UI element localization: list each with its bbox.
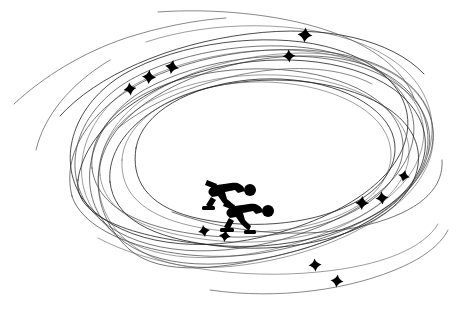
lead-skater-head xyxy=(262,205,274,217)
lead-skater-rear-blade xyxy=(244,230,256,234)
rear-skater-head xyxy=(244,184,256,196)
speed-skater-artwork xyxy=(0,0,458,312)
illustration-canvas: Speed Skaters with Swirling Track Loops xyxy=(0,0,458,312)
lead-skater-blade xyxy=(220,228,234,232)
rear-skater-blade xyxy=(202,206,215,210)
